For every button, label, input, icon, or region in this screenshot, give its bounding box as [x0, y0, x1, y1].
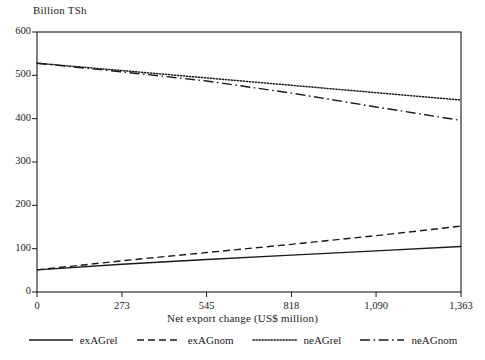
legend-swatch-dashdot — [359, 335, 405, 345]
series-line-neAGnom — [37, 63, 461, 120]
legend-label: exAGnom — [188, 334, 234, 346]
series-line-neAGrel — [37, 63, 461, 100]
legend-item-neAGnom[interactable]: neAGnom — [359, 334, 457, 346]
plot-frame — [37, 32, 461, 292]
legend-label: neAGnom — [411, 334, 457, 346]
legend-label: exAGrel — [80, 334, 118, 346]
chart-figure: Billion TSh 0100200300400500600 02735458… — [0, 0, 485, 360]
legend-swatch-dashed — [136, 335, 182, 345]
plot-area — [0, 0, 485, 360]
y-tick-label: 500 — [5, 68, 31, 79]
y-tick-label: 300 — [5, 155, 31, 166]
x-tick-label: 545 — [177, 300, 237, 311]
chart-legend: exAGrelexAGnomneAGrelneAGnom — [0, 334, 485, 346]
series-line-exAGnom — [37, 226, 461, 270]
legend-swatch-solid — [28, 335, 74, 345]
legend-item-exAGnom[interactable]: exAGnom — [136, 334, 234, 346]
legend-item-exAGrel[interactable]: exAGrel — [28, 334, 118, 346]
x-tick-label: 1,090 — [346, 300, 406, 311]
y-axis-title: Billion TSh — [33, 4, 87, 16]
y-tick-label: 0 — [5, 285, 31, 296]
legend-item-neAGrel[interactable]: neAGrel — [252, 334, 342, 346]
x-tick-label: 273 — [92, 300, 152, 311]
legend-label: neAGrel — [304, 334, 342, 346]
y-tick-label: 200 — [5, 198, 31, 209]
y-tick-label: 600 — [5, 25, 31, 36]
series-line-exAGrel — [37, 247, 461, 270]
y-tick-label: 100 — [5, 242, 31, 253]
x-tick-label: 818 — [261, 300, 321, 311]
x-tick-label: 0 — [7, 300, 67, 311]
legend-swatch-dotted — [252, 335, 298, 345]
x-axis-title: Net export change (US$ million) — [0, 312, 485, 324]
x-tick-label: 1,363 — [431, 300, 485, 311]
y-tick-label: 400 — [5, 112, 31, 123]
